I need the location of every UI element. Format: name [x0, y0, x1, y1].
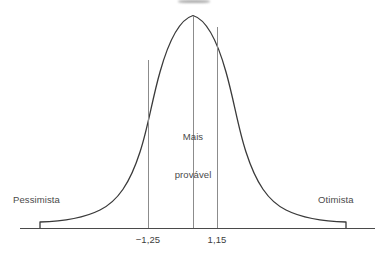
bell-curve-figure: Pessimista Otimista Mais provável −1,25 …: [0, 0, 388, 263]
label-otimista: Otimista: [318, 194, 354, 206]
label-mais-provavel-line2: provável: [160, 169, 226, 182]
tick-label-lower-bound: −1,25: [118, 234, 178, 245]
tick-label-upper-bound: 1,15: [190, 234, 244, 245]
label-mais-provavel-line1: Mais: [160, 131, 226, 144]
label-mais-provavel: Mais provável: [160, 106, 226, 206]
label-pessimista: Pessimista: [13, 194, 60, 206]
